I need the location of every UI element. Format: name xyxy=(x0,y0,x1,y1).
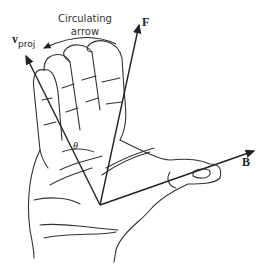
hand-outline xyxy=(28,41,220,262)
circulating-label-line1: Circulating xyxy=(50,12,120,25)
circulating-arrow-label: Circulating arrow xyxy=(50,12,120,38)
velocity-label: vproj xyxy=(12,33,35,49)
circulating-arrow xyxy=(44,38,116,48)
theta-arc xyxy=(62,149,94,152)
field-label: B xyxy=(242,156,250,168)
force-label: F xyxy=(142,16,149,28)
velocity-label-sub: proj xyxy=(18,39,35,49)
right-hand-diagram xyxy=(0,0,274,271)
circulating-label-line2: arrow xyxy=(50,25,120,38)
angle-label: θ xyxy=(73,141,78,151)
